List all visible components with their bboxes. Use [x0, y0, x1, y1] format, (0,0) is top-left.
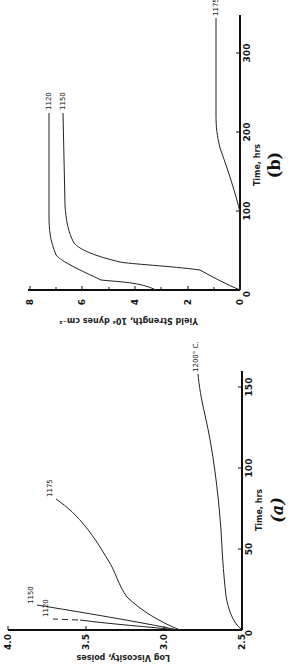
chart-a-curve-1120-solid: [80, 620, 178, 630]
chart-b-panel-label: (b): [265, 152, 284, 178]
chart-a: 0 50 100 150 2.5 3.0 3.5 4.0 Time, hrs L…: [3, 341, 287, 662]
chart-b-ylabel-rotated: Yield Strength, 10⁴ dynes cm⁻²: [59, 316, 199, 325]
chart-b-xlabel: Time, hrs: [253, 144, 262, 186]
chart-b-curve-1150: [63, 113, 240, 290]
chart-b-xtick-100: 100: [242, 202, 252, 221]
chart-a-curve-label-1200: 1200° C.: [192, 341, 200, 372]
chart-a-ytick-3.5: 3.5: [81, 634, 91, 650]
chart-a-ytick-3.0: 3.0: [159, 634, 169, 650]
chart-b-curve-label-1175: 1175° C.: [212, 0, 220, 16]
figure: 0 100 200 300 0 2 4 6 8 Time, hrs Yield …: [0, 0, 300, 669]
chart-a-xtick-100: 100: [244, 459, 254, 478]
chart-a-curve-1150: [37, 605, 178, 630]
chart-b-ytick-2: 2: [183, 299, 193, 305]
chart-b-curve-label-1150: 1150: [59, 92, 67, 110]
chart-a-xtick-50: 50: [244, 543, 254, 556]
chart-b-curve-1175: [216, 18, 240, 290]
chart-a-curve-label-1175: 1175: [46, 479, 54, 497]
chart-a-ytick-2.5: 2.5: [237, 634, 247, 650]
chart-a-curve-label-1150: 1150: [27, 586, 35, 604]
chart-b-curve-label-1120: 1120: [45, 92, 53, 110]
chart-a-curve-1120-dashed: [53, 619, 78, 620]
chart-a-curve-label-1120: 1120: [42, 599, 50, 617]
chart-a-curve-1175: [56, 499, 180, 630]
chart-a-ylabel: Log Viscosity, poises: [76, 653, 170, 662]
chart-a-xlabel: Time, hrs: [255, 489, 264, 531]
chart-b-ytick-0: 0: [235, 299, 245, 305]
chart-a-ytick-4.0: 4.0: [3, 634, 13, 650]
chart-b-ytick-4: 4: [130, 299, 140, 305]
chart-b: 0 100 200 300 0 2 4 6 8 Time, hrs Yield …: [25, 0, 284, 325]
chart-b-ytick-8: 8: [25, 299, 35, 305]
chart-b-xtick-0: 0: [242, 291, 252, 297]
chart-a-xtick-150: 150: [244, 378, 254, 397]
chart-a-curve-1200: [198, 374, 242, 630]
chart-b-xtick-200: 200: [242, 123, 252, 142]
chart-b-xtick-300: 300: [242, 44, 252, 63]
chart-b-ytick-6: 6: [77, 299, 87, 305]
chart-a-panel-label: (a): [268, 497, 287, 523]
